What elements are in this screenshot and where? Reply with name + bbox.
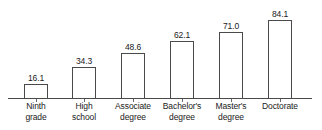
tick-label-line1: Ninth	[26, 101, 45, 111]
tick-label-line1: Master's	[215, 101, 246, 111]
bar-value-label: 34.3	[76, 56, 92, 66]
bar-rect[interactable]	[170, 41, 194, 99]
bar-value-label: 71.0	[223, 21, 239, 31]
tick-label-line1: High	[75, 101, 92, 111]
bar-rect[interactable]	[72, 67, 96, 99]
bar-rect[interactable]	[24, 84, 48, 99]
bar-value-label: 16.1	[28, 73, 44, 83]
bar-group-masters-degree[interactable]: 71.0	[219, 21, 243, 99]
tick-label-line1: Bachelor's	[163, 101, 201, 111]
bar-group-doctorate[interactable]: 84.1	[268, 9, 292, 99]
tick-label-line1: Doctorate	[262, 101, 298, 111]
x-axis-tick-labels: Ninth grade High school Associate degree…	[0, 101, 322, 130]
tick-label-doctorate: Doctorate	[251, 101, 309, 112]
bar-group-high-school[interactable]: 34.3	[72, 56, 96, 99]
bar-value-label: 48.6	[125, 42, 141, 52]
bar-rect[interactable]	[219, 32, 243, 99]
bar-rect[interactable]	[268, 20, 292, 99]
bar-group-ninth-grade[interactable]: 16.1	[24, 73, 48, 99]
bar-value-label: 62.1	[174, 30, 190, 40]
bar-chart: 16.1 34.3 48.6 62.1 71.0 84.1	[0, 0, 322, 130]
plot-area: 16.1 34.3 48.6 62.1 71.0 84.1	[0, 0, 322, 99]
bar-value-label: 84.1	[272, 9, 288, 19]
tick-label-line1: Associate	[115, 101, 151, 111]
bar-group-associate-degree[interactable]: 48.6	[121, 42, 145, 99]
bar-rect[interactable]	[121, 53, 145, 99]
bar-group-bachelors-degree[interactable]: 62.1	[170, 30, 194, 99]
x-axis-baseline	[8, 98, 312, 99]
tick-label-line2: degree	[202, 112, 260, 123]
